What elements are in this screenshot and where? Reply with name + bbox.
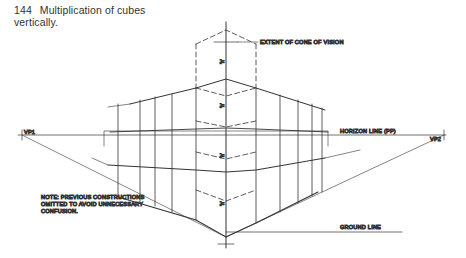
dim-mark-3: 'h' bbox=[219, 153, 225, 158]
note-line-1: NOTE: PREVIOUS CONSTRUCTIONS bbox=[41, 194, 145, 200]
left-lower-extension bbox=[92, 158, 108, 165]
left-upper-extension bbox=[108, 104, 130, 107]
dim-mark-4: 'h' bbox=[219, 201, 225, 206]
right-verticals bbox=[256, 88, 322, 223]
note-line-2: OMITTED TO AVOID UNNECESSARY bbox=[41, 201, 143, 207]
perspective-drawing: 'h' 'h' 'h' 'h' EXTENT OF CONE OF VISION… bbox=[0, 0, 466, 258]
lower-edge bbox=[108, 158, 325, 172]
cone-of-vision-label: EXTENT OF CONE OF VISION bbox=[260, 39, 344, 45]
vp1-label: VP1 bbox=[24, 129, 35, 135]
base-edge bbox=[118, 192, 318, 237]
picture-plane-bracket bbox=[104, 131, 328, 146]
horizon-line-label: HORIZON LINE (PP) bbox=[340, 128, 396, 134]
vp1-construction-line bbox=[22, 135, 226, 237]
ground-line-label: GROUND LINE bbox=[340, 224, 381, 230]
top-edge bbox=[130, 79, 325, 110]
note-line-3: CONFUSION. bbox=[41, 208, 78, 214]
middle-edge bbox=[110, 128, 328, 132]
right-lower-extension bbox=[325, 150, 360, 158]
vp2-label: VP2 bbox=[430, 136, 441, 142]
dim-mark-2: 'h' bbox=[219, 103, 225, 108]
dim-mark-1: 'h' bbox=[219, 59, 225, 64]
